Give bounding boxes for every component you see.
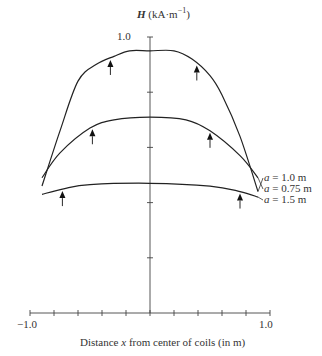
axes [30, 37, 270, 316]
coil-position-arrow-icon [89, 129, 95, 144]
x-tick-label-min: −1.0 [17, 318, 37, 330]
coil-position-arrow-icon [107, 60, 113, 75]
x-tick-label-max: 1.0 [259, 318, 273, 330]
legend-leader-line [258, 197, 263, 200]
y-tick-label-top: 1.0 [117, 30, 131, 42]
legend-label-a-1-5: a = 1.5 m [264, 193, 306, 205]
coil-position-arrow-icon [237, 194, 243, 209]
x-axis-label: Distance x from center of coils (in m) [80, 336, 245, 348]
legend-leader-lines [258, 178, 263, 200]
y-axis-label: H (kA·m−1) [137, 6, 190, 20]
coil-position-arrow-icon [207, 133, 213, 148]
coil-position-arrow-icon [59, 191, 65, 206]
coil-position-arrow-icon [194, 65, 200, 80]
